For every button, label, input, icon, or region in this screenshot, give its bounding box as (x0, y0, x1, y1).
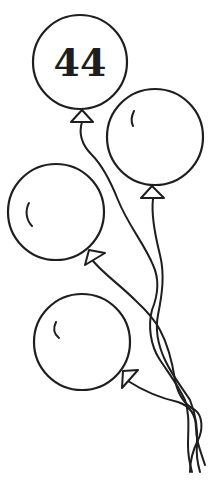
balloon-number: 44 (54, 40, 107, 85)
balloon-3 (8, 164, 105, 265)
balloon-4 (34, 294, 138, 390)
balloon-1-knot (71, 110, 93, 122)
balloon-2-body (107, 89, 203, 185)
string-2 (152, 199, 200, 472)
balloon-1: 44 (33, 15, 127, 122)
balloon-4-body (34, 294, 130, 390)
balloon-2 (107, 89, 203, 198)
balloon-illustration: 44 (0, 0, 209, 489)
balloon-3-body (8, 164, 104, 260)
balloon-2-knot (141, 186, 164, 198)
